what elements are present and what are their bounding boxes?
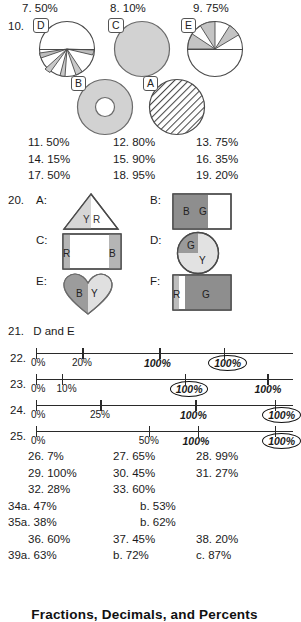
tick-label: 0% xyxy=(31,409,45,420)
answer-12-number: 12. xyxy=(113,136,129,148)
answer-31: 31. 27% xyxy=(196,467,238,479)
answer-21-value: D and E xyxy=(33,325,75,337)
pie-tag-c: C xyxy=(108,18,124,33)
answer-29: 29. 100% xyxy=(28,467,77,479)
answer-14: 14. 15% xyxy=(28,153,70,165)
svg-text:Y: Y xyxy=(83,214,90,225)
answer-39c-value: 87% xyxy=(208,549,231,561)
answer-19-value: 20% xyxy=(215,169,238,181)
tick-label: 0% xyxy=(31,357,45,368)
answer-35b-number: b. xyxy=(140,516,150,528)
answer-34b-number: b. xyxy=(140,500,150,512)
answer-26-number: 26. xyxy=(28,450,44,462)
pie-tag-e: E xyxy=(181,18,196,33)
tick-label: 0% xyxy=(31,435,45,446)
answer-9-value: 75% xyxy=(206,2,229,14)
answer-32: 32. 28% xyxy=(28,483,70,495)
pie-tag-a: A xyxy=(143,76,158,91)
answers-row-11-13: 11. 50% 12. 80% 13. 75% xyxy=(0,136,289,153)
handwritten-label: 100% xyxy=(182,435,209,447)
answer-28: 28. 99% xyxy=(196,450,238,462)
answer-17-value: 50% xyxy=(47,169,70,181)
number-line-24-number: 24. xyxy=(10,404,26,416)
axis-line xyxy=(36,431,293,432)
handwritten-label: 100% xyxy=(254,383,281,395)
number-line-25-number: 25. xyxy=(10,430,26,442)
answer-9: 9. 75% xyxy=(193,2,229,14)
answer-39c: c. 87% xyxy=(196,549,231,561)
answers-row-36-38: 36. 60% 37. 45% 38. 20% xyxy=(0,533,289,550)
answer-19-number: 19. xyxy=(196,169,212,181)
answer-30: 30. 45% xyxy=(113,467,155,479)
answer-7-number: 7. xyxy=(22,2,32,14)
shape-c-rectangle: R B xyxy=(62,233,122,270)
tick-label: 10% xyxy=(57,383,77,394)
answer-34b: b. 53% xyxy=(140,500,176,512)
answer-19: 19. 20% xyxy=(196,169,238,181)
answer-37: 37. 45% xyxy=(113,533,155,545)
answer-36-value: 60% xyxy=(47,533,70,545)
answer-15: 15. 90% xyxy=(113,153,155,165)
shape-d-circle: G Y xyxy=(176,231,220,275)
answer-39a: 39a. 63% xyxy=(8,549,57,561)
handwritten-label: 100% xyxy=(144,357,171,369)
answer-26: 26. 7% xyxy=(28,450,64,462)
answer-11-value: 50% xyxy=(46,136,69,148)
answer-38-value: 20% xyxy=(215,533,238,545)
answer-11-number: 11. xyxy=(28,136,43,148)
answer-33: 33. 60% xyxy=(113,483,155,495)
tick-label: 50% xyxy=(139,435,159,446)
number-lines-group: 22. 0% 20% 100% 100% 23. 0% xyxy=(0,343,289,448)
answer-18: 18. 95% xyxy=(113,169,155,181)
axis-line xyxy=(36,405,293,406)
answer-28-number: 28. xyxy=(196,450,212,462)
answers-11-19-grid: 11. 50% 12. 80% 13. 75% 14. 15% 15. 90% xyxy=(0,136,289,186)
answer-38: 38. 20% xyxy=(196,533,238,545)
answer-31-value: 27% xyxy=(215,467,238,479)
number-line-23-number: 23. xyxy=(10,378,26,390)
circled-answer: 100% xyxy=(262,433,301,449)
answer-21-number: 21. xyxy=(8,325,24,337)
answer-35a-number: 35a. xyxy=(8,516,30,528)
axis-line xyxy=(36,353,293,354)
answers-row-26-28: 26. 7% 27. 65% 28. 99% xyxy=(0,450,289,467)
answer-14-number: 14. xyxy=(28,153,44,165)
axis-line xyxy=(36,379,293,380)
answer-29-value: 100% xyxy=(47,467,76,479)
answer-32-value: 28% xyxy=(47,483,70,495)
item-20-number: 20. xyxy=(8,194,24,206)
svg-text:G: G xyxy=(202,289,210,300)
number-line-24-track: 0% 25% 100% 100% xyxy=(36,400,293,420)
answer-7: 7. 50% xyxy=(22,2,58,14)
svg-text:R: R xyxy=(173,289,180,300)
svg-text:Y: Y xyxy=(199,255,206,266)
number-line-23: 23. 0% 10% 100% 100% xyxy=(0,369,289,395)
svg-text:G: G xyxy=(199,206,207,217)
shape-label-c: C: xyxy=(36,234,48,246)
answer-13: 13. 75% xyxy=(196,136,238,148)
answer-34b-value: 53% xyxy=(153,500,176,512)
answer-12: 12. 80% xyxy=(113,136,155,148)
answer-36: 36. 60% xyxy=(28,533,70,545)
answer-18-number: 18. xyxy=(113,169,129,181)
answer-27: 27. 65% xyxy=(113,450,155,462)
shape-label-a: A: xyxy=(36,194,47,206)
answer-16-value: 35% xyxy=(215,153,238,165)
answer-9-number: 9. xyxy=(193,2,203,14)
answer-39a-number: 39a. xyxy=(8,549,30,561)
answer-31-number: 31. xyxy=(196,467,212,479)
answer-15-number: 15. xyxy=(113,153,129,165)
number-line-25: 25. 0% 50% 100% 100% xyxy=(0,421,289,447)
page-footer-title: Fractions, Decimals, and Percents xyxy=(0,607,289,622)
answer-35b-value: 62% xyxy=(153,516,176,528)
answer-17-number: 17. xyxy=(28,169,44,181)
shape-a-triangle: Y R xyxy=(62,192,120,232)
shape-label-b: B: xyxy=(150,194,161,206)
answer-8: 8. 10% xyxy=(110,2,146,14)
number-line-22: 22. 0% 20% 100% 100% xyxy=(0,343,289,369)
answer-8-number: 8. xyxy=(110,2,120,14)
answer-8-value: 10% xyxy=(123,2,146,14)
answer-33-number: 33. xyxy=(113,483,129,495)
tick-label: 25% xyxy=(90,409,110,420)
